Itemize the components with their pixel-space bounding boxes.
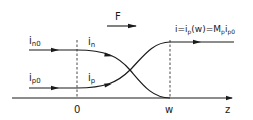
in0-label: in0 [29,35,41,48]
multiplication-diagram: F in0 ip0 in ip i=ip(w)=Mpip0 0 w z [0,0,253,120]
ip-label: ip [88,72,96,85]
in-curve [77,50,170,98]
w-label: w [165,104,173,115]
origin-label: 0 [74,104,80,115]
in0-arrow-icon [51,48,59,52]
ip0-label: ip0 [29,72,41,85]
field-arrow-icon [128,24,137,28]
result-equation-label: i=ip(w)=Mpip0 [175,24,235,36]
in-arrow-icon [104,53,112,57]
ip-arrow-icon [104,83,112,87]
in-label: in [88,36,95,49]
output-arrow-icon [193,40,201,44]
ip0-arrow-icon [51,86,59,90]
z-label: z [225,104,230,115]
field-label: F [115,11,121,22]
